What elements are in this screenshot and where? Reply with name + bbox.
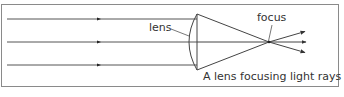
outgoing-ray-top xyxy=(269,32,305,43)
diagram-caption: A lens focusing light rays xyxy=(203,70,342,83)
lens-diagram: lens focus A lens focusing light rays xyxy=(0,0,344,97)
lens-leader-line xyxy=(171,29,189,36)
refracted-ray-bottom xyxy=(197,42,269,70)
focus-point xyxy=(268,41,271,44)
outgoing-ray-bottom xyxy=(269,42,305,53)
arrow-marker-icon xyxy=(97,41,101,44)
focus-leader-line xyxy=(269,25,273,41)
focus-label: focus xyxy=(257,11,287,24)
arrow-marker-icon xyxy=(97,64,101,67)
lens-label: lens xyxy=(149,21,172,34)
ray-direction-markers xyxy=(97,18,101,67)
refracted-rays xyxy=(197,14,306,70)
arrow-marker-icon xyxy=(97,18,101,21)
